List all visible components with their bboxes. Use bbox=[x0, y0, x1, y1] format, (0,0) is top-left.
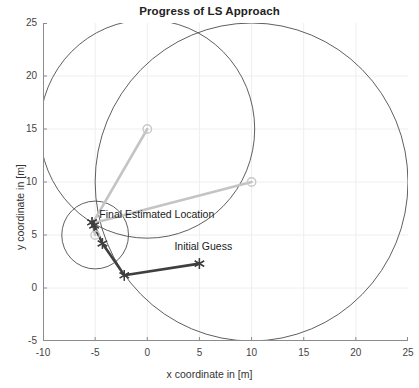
y-tick-label: 0 bbox=[7, 282, 37, 293]
x-axis-label: x coordinate in [m] bbox=[0, 368, 419, 380]
x-tick-label: 20 bbox=[336, 347, 376, 358]
page-title: Progress of LS Approach bbox=[0, 5, 419, 17]
y-tick-label: 25 bbox=[7, 17, 37, 28]
x-tick-label: 25 bbox=[388, 347, 419, 358]
x-tick-label: 5 bbox=[179, 347, 219, 358]
x-tick-label: 10 bbox=[232, 347, 272, 358]
y-tick-label: 15 bbox=[7, 123, 37, 134]
final-estimated-location-label: Final Estimated Location bbox=[99, 208, 214, 220]
y-tick-label: 5 bbox=[7, 229, 37, 240]
initial-guess-label: Initial Guess bbox=[174, 240, 232, 252]
range-circle-1 bbox=[43, 23, 255, 238]
x-tick-label: -5 bbox=[75, 347, 115, 358]
x-tick-label: -10 bbox=[23, 347, 63, 358]
plot-area: Final Estimated LocationInitial Guess bbox=[43, 23, 408, 341]
x-tick-label: 15 bbox=[284, 347, 324, 358]
y-tick-label: 20 bbox=[7, 70, 37, 81]
figure: Progress of LS Approach y coordinate in … bbox=[0, 0, 419, 388]
y-tick-label: -5 bbox=[7, 335, 37, 346]
y-tick-label: 10 bbox=[7, 176, 37, 187]
plot-svg bbox=[43, 23, 408, 341]
x-tick-label: 0 bbox=[127, 347, 167, 358]
grid-lines bbox=[43, 23, 408, 341]
